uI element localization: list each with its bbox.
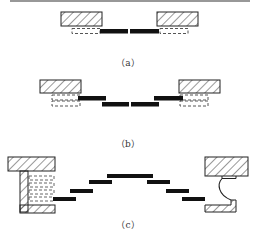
stored-blade-dashed-2	[29, 183, 54, 187]
right-retracted-blade-dashed	[160, 29, 188, 34]
caption-a: （a）	[116, 56, 139, 69]
blade-R2	[166, 189, 189, 193]
right-wall-hatched	[157, 12, 198, 26]
blade-2	[102, 102, 129, 107]
left-wall-hatched	[61, 12, 102, 26]
blade-R3	[147, 180, 170, 184]
blade-right	[130, 29, 159, 34]
stored-blade-dashed-3	[29, 190, 54, 194]
blade-R1	[182, 197, 205, 201]
blade-L3	[89, 180, 112, 184]
blade-L2	[70, 189, 93, 193]
clipped-text-remnant	[10, 0, 250, 2]
caption-c: （c）	[116, 218, 139, 231]
blade-4	[154, 96, 183, 101]
right-retracted-blade-dashed-2	[180, 101, 208, 106]
left-housing-bottom-hatched	[20, 205, 55, 213]
blade-top-left	[107, 174, 130, 178]
left-retracted-blade-dashed	[72, 29, 100, 34]
blade-L1	[53, 197, 76, 201]
right-housing-top-hatched	[205, 157, 248, 176]
panel-b	[40, 80, 220, 107]
left-wall-hatched	[40, 80, 81, 93]
curved-seat	[219, 179, 231, 201]
blade-left	[100, 29, 128, 34]
panel-c	[8, 157, 248, 213]
stored-blade-dashed-1	[29, 176, 54, 180]
right-housing-bottom-hatched	[205, 200, 236, 212]
panel-a	[61, 12, 198, 34]
blade-top-right	[130, 174, 153, 178]
left-retracted-blade-dashed-1	[52, 95, 80, 100]
left-housing-top-hatched	[8, 157, 55, 171]
right-retracted-blade-dashed-1	[180, 95, 208, 100]
blade-configuration-diagram	[0, 0, 256, 234]
stored-blade-dashed-4	[29, 197, 54, 201]
blade-3	[131, 102, 159, 107]
blade-1	[78, 96, 106, 101]
caption-b: （b）	[116, 137, 140, 150]
left-retracted-blade-dashed-2	[52, 101, 80, 106]
right-wall-hatched	[179, 80, 220, 93]
